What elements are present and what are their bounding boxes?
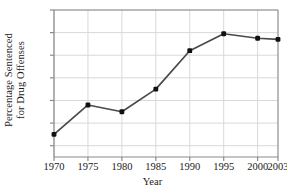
x-tick-label: 1975 xyxy=(77,161,98,172)
data-point-marker xyxy=(187,48,192,53)
data-point-marker xyxy=(153,87,158,92)
data-point-marker xyxy=(52,132,57,137)
data-point-marker xyxy=(119,109,124,114)
x-tick-label: 2000 xyxy=(247,161,268,172)
x-axis-title: Year xyxy=(0,176,287,187)
x-tick-label: 1990 xyxy=(179,161,200,172)
drug-offenses-line-chart: Percentage Sentenced for Drug Offenses 1… xyxy=(0,0,287,194)
x-tick-label: 1980 xyxy=(111,161,132,172)
data-point-marker xyxy=(86,103,91,108)
x-tick-label: 1985 xyxy=(145,161,166,172)
x-tick-label: 1970 xyxy=(44,161,65,172)
x-tick-label: 2003 xyxy=(268,161,288,172)
x-axis-title-text: Year xyxy=(143,176,162,187)
x-tick-label: 1995 xyxy=(213,161,234,172)
data-point-marker xyxy=(221,31,226,36)
data-point-marker xyxy=(255,36,260,41)
data-point-marker xyxy=(276,37,281,42)
